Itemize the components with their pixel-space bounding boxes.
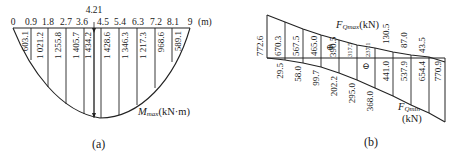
fqmin-value: 770.9 [433, 61, 443, 82]
moment-value: 1 217.3 [138, 32, 148, 60]
moment-value: 1 405.7 [71, 32, 81, 60]
negative-sign-icon: ⊖ [362, 61, 370, 71]
moment-value: 1 346.3 [120, 32, 130, 60]
fqmin-value: 58.0 [293, 66, 303, 82]
tick-7: 6.3 [132, 17, 144, 27]
fqmax-value: 670.3 [273, 35, 283, 56]
fqmin-value: 29.5 [275, 63, 285, 79]
fqmax-value: 130.5 [381, 23, 391, 44]
fqmin-value: 202.2 [329, 76, 339, 96]
moment-value: 968.6 [156, 32, 166, 53]
caption-a: (a) [92, 137, 105, 152]
fqmin-value: 295.0 [347, 83, 357, 104]
fqmin-value: 99.7 [311, 70, 321, 86]
tick-8: 7.2 [150, 17, 162, 27]
tick-9: 8.1 [167, 17, 179, 27]
moment-value: 589.1 [173, 31, 183, 51]
moment-value: 1 428.6 [102, 32, 112, 60]
caption-b: (b) [364, 135, 378, 150]
fqmin-unit: (kN) [402, 113, 422, 125]
tick-1: 0.9 [25, 17, 37, 27]
fqmin-value: 654.4 [417, 61, 427, 82]
fqmax-value: 317.5 [346, 42, 353, 57]
fqmax-value: 237.1 [364, 42, 371, 57]
tick-5: 4.5 [97, 17, 109, 27]
peak-position-label: 4.21 [86, 5, 103, 15]
moment-envelope-diagram: 0 0.9 1.8 2.7 3.6 4.5 5.4 6.3 7.2 8.1 9 … [11, 5, 212, 118]
tick-2: 1.8 [42, 17, 54, 27]
fqmax-value: 87.0 [399, 32, 409, 48]
fqmin-label: FQmin [397, 101, 420, 113]
tick-10: 9 [188, 17, 193, 27]
fqmin-value: 537.9 [399, 61, 409, 82]
fqmax-value: 567.5 [291, 35, 301, 56]
fqmax-value: 465.0 [309, 35, 319, 56]
tick-6: 5.4 [114, 17, 126, 27]
axis-unit: (m) [198, 17, 212, 28]
fqmin-values: 29.5 58.0 99.7 202.2 295.0 368.0 441.0 5… [275, 61, 443, 112]
positive-sign-icon: ⊕ [326, 42, 334, 52]
tick-3: 2.7 [60, 17, 72, 27]
shear-envelope-diagram: 772.6 670.3 567.5 465.0 390.5 317.5 237.… [255, 15, 445, 125]
fqmin-value: 368.0 [365, 91, 375, 112]
fqmax-value: 772.6 [255, 35, 265, 56]
x-tick-labels: 0 0.9 1.8 2.7 3.6 4.5 5.4 6.3 7.2 8.1 9 … [11, 5, 212, 28]
moment-values: 603.1 1 021.2 1 255.8 1 405.7 1 434.2 1 … [20, 31, 183, 59]
fqmin-value: 441.0 [381, 61, 391, 82]
fqmax-label: FQmax(kN) [335, 19, 379, 31]
influence-diagrams: 0 0.9 1.8 2.7 3.6 4.5 5.4 6.3 7.2 8.1 9 … [0, 0, 453, 158]
moment-curve-label: Mmax(kN·m) [137, 106, 190, 118]
fqmax-value: 43.5 [417, 37, 427, 53]
moment-value: 1 434.2 [83, 32, 93, 59]
moment-value: 1 021.2 [35, 32, 45, 59]
tick-0: 0 [11, 17, 16, 27]
moment-value: 1 255.8 [53, 32, 63, 60]
tick-4: 3.6 [76, 17, 88, 27]
moment-value: 603.1 [20, 31, 30, 51]
